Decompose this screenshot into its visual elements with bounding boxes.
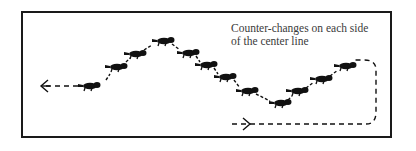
horse-icon <box>124 50 147 59</box>
horse-icon <box>286 87 309 96</box>
horse-icon <box>236 87 259 96</box>
horse-icon <box>214 73 237 82</box>
horse-icon <box>334 62 357 71</box>
horse-icon <box>152 37 175 46</box>
horse-icon <box>269 99 292 108</box>
counter-change-diagram <box>0 0 416 151</box>
horse-icon <box>105 63 128 72</box>
horse-icon <box>78 82 101 91</box>
arrow-left-icon <box>41 80 50 92</box>
horse-icon <box>310 75 333 84</box>
